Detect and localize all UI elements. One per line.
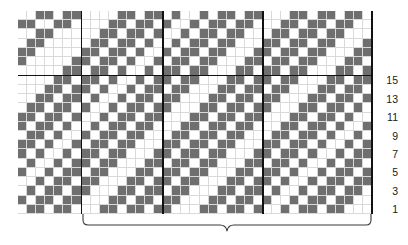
chart-cell[interactable] [109,131,118,140]
chart-cell[interactable] [290,149,299,158]
chart-cell[interactable] [190,85,199,94]
chart-cell[interactable] [245,76,254,85]
chart-cell[interactable] [218,113,227,122]
chart-cell[interactable] [327,48,336,57]
chart-cell[interactable] [63,205,72,214]
chart-cell[interactable] [200,186,209,195]
chart-cell[interactable] [27,85,36,94]
chart-cell[interactable] [145,94,154,103]
chart-cell[interactable] [63,76,72,85]
chart-cell[interactable] [336,177,345,186]
chart-cell[interactable] [163,149,172,158]
chart-cell[interactable] [82,57,91,66]
chart-cell[interactable] [127,48,136,57]
chart-cell[interactable] [127,113,136,122]
chart-cell[interactable] [200,103,209,112]
chart-cell[interactable] [327,20,336,29]
chart-cell[interactable] [127,159,136,168]
chart-cell[interactable] [263,159,272,168]
chart-cell[interactable] [318,94,327,103]
chart-cell[interactable] [18,131,27,140]
chart-cell[interactable] [218,11,227,20]
chart-cell[interactable] [109,205,118,214]
chart-cell[interactable] [54,196,63,205]
chart-cell[interactable] [299,85,308,94]
chart-cell[interactable] [308,11,317,20]
chart-cell[interactable] [281,186,290,195]
chart-cell[interactable] [45,131,54,140]
chart-cell[interactable] [63,159,72,168]
chart-cell[interactable] [290,85,299,94]
chart-cell[interactable] [172,103,181,112]
chart-cell[interactable] [209,39,218,48]
chart-cell[interactable] [345,113,354,122]
chart-cell[interactable] [54,177,63,186]
chart-cell[interactable] [172,11,181,20]
chart-cell[interactable] [27,20,36,29]
chart-cell[interactable] [308,57,317,66]
chart-cell[interactable] [63,177,72,186]
chart-cell[interactable] [200,20,209,29]
chart-cell[interactable] [100,177,109,186]
chart-cell[interactable] [82,85,91,94]
chart-cell[interactable] [218,177,227,186]
chart-cell[interactable] [263,85,272,94]
chart-cell[interactable] [354,140,363,149]
chart-cell[interactable] [45,140,54,149]
chart-cell[interactable] [91,196,100,205]
chart-cell[interactable] [345,20,354,29]
chart-cell[interactable] [109,39,118,48]
chart-cell[interactable] [172,76,181,85]
chart-cell[interactable] [145,20,154,29]
chart-cell[interactable] [209,11,218,20]
chart-cell[interactable] [245,48,254,57]
chart-cell[interactable] [136,48,145,57]
chart-cell[interactable] [45,168,54,177]
chart-cell[interactable] [209,177,218,186]
chart-cell[interactable] [263,131,272,140]
chart-cell[interactable] [272,205,281,214]
chart-cell[interactable] [299,168,308,177]
chart-cell[interactable] [36,103,45,112]
chart-cell[interactable] [245,131,254,140]
chart-cell[interactable] [136,85,145,94]
chart-cell[interactable] [181,140,190,149]
chart-cell[interactable] [190,103,199,112]
chart-cell[interactable] [236,85,245,94]
chart-cell[interactable] [172,131,181,140]
chart-cell[interactable] [200,177,209,186]
chart-cell[interactable] [36,168,45,177]
chart-cell[interactable] [36,205,45,214]
chart-cell[interactable] [181,159,190,168]
chart-cell[interactable] [63,48,72,57]
chart-cell[interactable] [172,20,181,29]
chart-cell[interactable] [36,149,45,158]
chart-cell[interactable] [27,39,36,48]
chart-cell[interactable] [281,205,290,214]
chart-cell[interactable] [354,113,363,122]
chart-cell[interactable] [18,48,27,57]
chart-cell[interactable] [209,140,218,149]
chart-cell[interactable] [272,103,281,112]
chart-cell[interactable] [145,149,154,158]
chart-cell[interactable] [190,94,199,103]
chart-cell[interactable] [109,11,118,20]
chart-cell[interactable] [91,11,100,20]
chart-cell[interactable] [172,39,181,48]
chart-cell[interactable] [136,168,145,177]
chart-cell[interactable] [145,85,154,94]
chart-cell[interactable] [82,48,91,57]
chart-cell[interactable] [36,11,45,20]
chart-cell[interactable] [236,11,245,20]
chart-cell[interactable] [172,186,181,195]
chart-cell[interactable] [54,122,63,131]
chart-cell[interactable] [45,48,54,57]
chart-cell[interactable] [100,149,109,158]
chart-cell[interactable] [354,168,363,177]
chart-cell[interactable] [100,48,109,57]
chart-cell[interactable] [318,85,327,94]
chart-cell[interactable] [354,20,363,29]
chart-cell[interactable] [109,168,118,177]
chart-cell[interactable] [236,140,245,149]
chart-cell[interactable] [345,168,354,177]
